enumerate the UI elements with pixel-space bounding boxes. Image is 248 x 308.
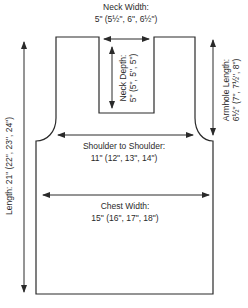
armhole-length-label: Armhole Length: [221,59,231,121]
shoulder-to-shoulder-value: 11" (12", 13", 14") [91,153,158,163]
chest-width-value: 15" (16", 17", 18") [91,213,159,223]
neck-width-label: Neck Width: [103,2,149,12]
armhole-length-value: 6½" (7", 7½", 8") [231,59,241,122]
neck-depth-label: Neck Depth: [118,55,128,102]
schematic-canvas: Neck Width: 5" (5½", 6", 6½") Neck Depth… [0,0,248,308]
chest-width-label: Chest Width: [101,201,150,211]
length-label: Length: 21" (22", 23", 24") [4,117,14,215]
neck-depth-value: 5" (5", 5", 5") [128,54,138,103]
neck-width-value: 5" (5½", 6", 6½") [95,14,158,24]
shoulder-to-shoulder-label: Shoulder to Shoulder: [83,141,165,151]
